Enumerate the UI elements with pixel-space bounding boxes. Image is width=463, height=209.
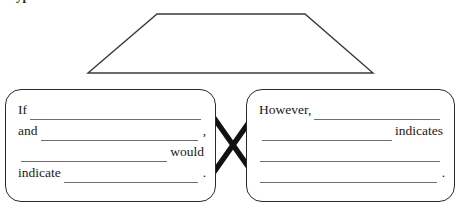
blank-line[interactable] xyxy=(258,144,445,165)
line-trail-text: would xyxy=(169,144,205,160)
blank-line[interactable]: indicates xyxy=(258,123,445,144)
worksheet-canvas: Hypothesis If and , xyxy=(0,0,463,209)
fill-in-blank-rule[interactable] xyxy=(41,140,198,141)
line-lead-text: and xyxy=(17,123,39,139)
fill-in-blank-rule[interactable] xyxy=(64,182,198,183)
line-punctuation: . xyxy=(441,165,445,181)
blank-line[interactable]: . xyxy=(258,165,445,186)
fill-in-blank-rule[interactable] xyxy=(30,119,201,120)
if-then-lines: If and , would indicate . xyxy=(17,102,206,186)
trapezoid-container xyxy=(0,0,463,90)
line-punctuation: , xyxy=(202,123,206,139)
fill-in-blank-rule[interactable] xyxy=(260,182,437,183)
however-lines: However, indicates . xyxy=(258,102,445,186)
fill-in-blank-rule[interactable] xyxy=(262,140,392,141)
line-punctuation: . xyxy=(202,165,206,181)
trapezoid-icon xyxy=(0,0,463,90)
fill-in-blank-rule[interactable] xyxy=(260,161,440,162)
fill-in-blank-rule[interactable] xyxy=(314,119,440,120)
blank-line[interactable]: indicate . xyxy=(17,165,206,186)
blank-line[interactable]: and , xyxy=(17,123,206,144)
line-lead-text: indicate xyxy=(17,165,62,181)
if-then-clause-box[interactable]: If and , would indicate . xyxy=(5,89,216,202)
fill-in-blank-rule[interactable] xyxy=(21,161,167,162)
line-lead-text: However, xyxy=(258,102,312,118)
line-trail-text: indicates xyxy=(394,123,444,139)
blank-line[interactable]: If xyxy=(17,102,206,123)
however-clause-box[interactable]: However, indicates . xyxy=(246,89,455,202)
blank-line[interactable]: However, xyxy=(258,102,445,123)
line-lead-text: If xyxy=(17,102,28,118)
blank-line[interactable]: would xyxy=(17,144,206,165)
